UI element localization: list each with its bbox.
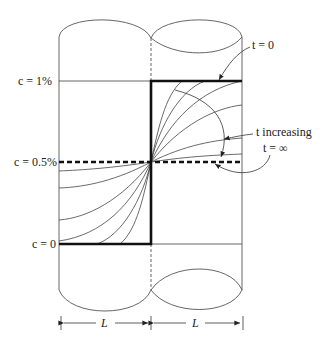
label-length-left: L [100, 316, 108, 330]
t-infinity-pointer [215, 155, 270, 173]
dimension-lines [61, 316, 243, 330]
label-c-low: c = 0 [32, 237, 56, 251]
t-zero-pointer [219, 47, 250, 80]
label-length-right: L [191, 316, 199, 330]
label-t-infinity: t = ∞ [263, 141, 288, 155]
label-t-zero: t = 0 [252, 38, 274, 52]
t-increasing-arc [175, 90, 224, 157]
label-t-increasing: t increasing [256, 125, 312, 139]
label-c-high: c = 1% [18, 74, 52, 88]
label-c-mid: c = 0.5% [14, 155, 57, 169]
diffusion-diagram: c = 1% c = 0.5% c = 0 t = 0 t increasing… [0, 0, 326, 344]
